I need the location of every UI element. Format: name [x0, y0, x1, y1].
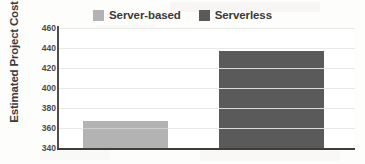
y-axis-line: [57, 26, 59, 150]
bar-server-based: [83, 121, 168, 148]
y-tick-label: 440: [42, 44, 56, 52]
gridline: [83, 128, 168, 129]
x-axis-line: [57, 148, 355, 150]
gridline: [219, 128, 324, 129]
plot-wrapper: 340360380400420440460: [0, 0, 365, 164]
gridline: [219, 68, 324, 69]
y-tick-label: 420: [42, 64, 56, 72]
bar-chart: Server-based Serverless Estimated Projec…: [0, 0, 365, 164]
y-tick-label: 460: [42, 24, 56, 32]
bar-serverless: [219, 51, 324, 148]
y-tick-label: 360: [42, 124, 56, 132]
y-axis-tick-labels: 340360380400420440460: [26, 0, 56, 164]
gridline: [59, 28, 355, 29]
y-tick-label: 340: [42, 144, 56, 152]
gridline: [59, 48, 355, 49]
y-tick-label: 400: [42, 84, 56, 92]
y-tick-label: 380: [42, 104, 56, 112]
gridline: [219, 88, 324, 89]
plot-area: [59, 28, 355, 148]
gridline: [219, 108, 324, 109]
